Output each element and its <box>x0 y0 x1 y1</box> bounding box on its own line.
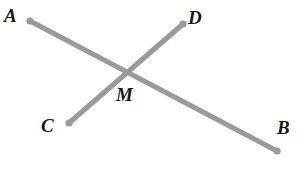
point-label-m: M <box>116 85 133 104</box>
point-label-a: A <box>4 6 17 25</box>
point-label-b: B <box>277 118 290 137</box>
vertex-dot-a <box>26 17 33 24</box>
point-label-c: C <box>41 116 54 135</box>
vertex-dot-d <box>179 20 186 27</box>
geometry-canvas <box>0 0 308 175</box>
geometry-figure: A D M C B <box>0 0 308 175</box>
segment-cd <box>69 24 183 123</box>
segment-ab <box>30 21 277 151</box>
point-label-d: D <box>188 8 202 27</box>
vertex-dot-c <box>65 119 72 126</box>
vertex-dot-b <box>273 147 280 154</box>
